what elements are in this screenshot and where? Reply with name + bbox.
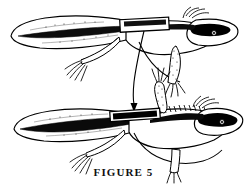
upper-pupil [213, 32, 215, 34]
upper-dorsal-tag-band [120, 17, 170, 32]
figure-caption: FIGURE 5 [0, 166, 247, 178]
lower-pupil [221, 121, 223, 123]
figure-page: FIGURE 5 [0, 0, 247, 184]
salamander-figure-illustration [0, 0, 247, 184]
